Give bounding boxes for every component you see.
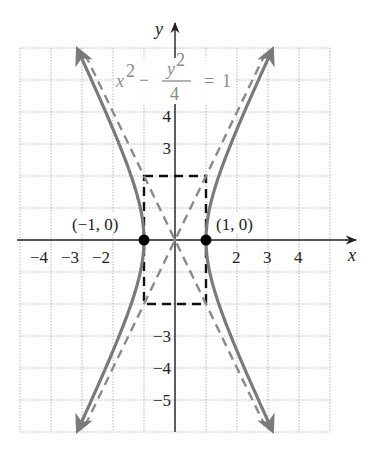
x-tick-label: 2 [232, 248, 241, 267]
y-tick-label: 3 [163, 139, 172, 158]
vertex-right-label: (1, 0) [216, 215, 253, 234]
equation-label: x 2 − y 2 4 = 1 [114, 50, 236, 104]
eq-equals: = [204, 71, 214, 91]
y-tick-labels: 4 3 −3 −4 −5 [153, 107, 172, 410]
x-tick-label: −3 [61, 248, 79, 267]
x-axis-label: x [347, 245, 356, 265]
y-tick-label: −5 [153, 391, 171, 410]
vertex-left-label: (−1, 0) [72, 215, 118, 234]
eq-x-exponent: 2 [126, 61, 135, 81]
diagram-canvas: x y (−1, 0) (1, 0) −4 −3 −2 2 3 4 4 3 [0, 0, 371, 453]
x-tick-label: −2 [92, 248, 110, 267]
eq-frac-numerator: y [165, 59, 175, 79]
x-tick-label: 3 [263, 248, 272, 267]
eq-minus: − [139, 70, 149, 90]
x-tick-label: 4 [294, 248, 303, 267]
eq-frac-denominator: 4 [170, 84, 179, 104]
y-axis-label: y [153, 19, 163, 39]
y-tick-label: −3 [153, 327, 171, 346]
origin-marker [173, 238, 177, 242]
vertex-right-point [201, 235, 212, 246]
x-tick-label: −4 [30, 248, 49, 267]
vertex-left-point [139, 235, 150, 246]
y-tick-label: −4 [153, 359, 172, 378]
y-tick-label: 4 [163, 107, 172, 126]
eq-x: x [115, 71, 124, 91]
eq-frac-num-exponent: 2 [176, 50, 185, 70]
eq-rhs: 1 [222, 71, 231, 91]
hyperbola-diagram: x y (−1, 0) (1, 0) −4 −3 −2 2 3 4 4 3 [0, 0, 371, 453]
